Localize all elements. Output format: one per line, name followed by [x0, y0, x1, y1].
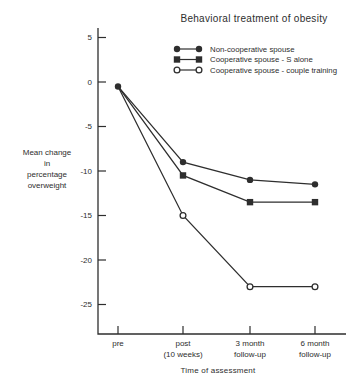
series-line-2: [118, 86, 315, 286]
legend-label: Cooperative spouse - S alone: [210, 55, 313, 64]
filled-square-marker: [180, 172, 186, 178]
series-non-cooperative-spouse: [115, 83, 318, 187]
series-cooperative-spouse-couple-training: [118, 86, 318, 289]
chart-title: Behavioral treatment of obesity: [154, 13, 354, 24]
obesity-treatment-figure: 50-5-10-15-20-25prepost(10 weeks)3 month…: [0, 0, 358, 382]
y-tick-label: 5: [88, 33, 93, 42]
series-line-0: [118, 86, 315, 184]
x-axis-label: Time of assessment: [118, 366, 318, 375]
legend-label: Cooperative spouse - couple training: [210, 66, 337, 75]
filled-circle-marker: [196, 46, 202, 52]
legend-label: Non-cooperative spouse: [210, 45, 295, 54]
y-axis-label-line: overweight: [10, 180, 84, 191]
filled-circle-marker: [115, 83, 121, 89]
open-circle-marker: [247, 284, 253, 290]
y-axis-label: Mean change in percentage overweight: [10, 147, 84, 191]
filled-circle-marker: [174, 46, 180, 52]
filled-square-marker: [247, 199, 253, 205]
y-axis-label-line: in: [10, 158, 84, 169]
legend-item-non-cooperative-spouse: Non-cooperative spouse: [174, 45, 295, 54]
filled-circle-marker: [247, 177, 253, 183]
x-tick-label: post(10 weeks): [163, 339, 202, 359]
filled-circle-marker: [180, 159, 186, 165]
filled-square-marker: [196, 56, 202, 62]
x-tick-label: 6 monthfollow-up: [299, 339, 332, 359]
y-axis-label-line: percentage: [10, 169, 84, 180]
y-tick-label: -20: [80, 256, 92, 265]
filled-circle-marker: [312, 181, 318, 187]
x-tick-label: pre: [112, 339, 124, 348]
open-circle-marker: [196, 67, 202, 73]
y-tick-label: 0: [88, 78, 93, 87]
y-tick-label: -25: [80, 300, 92, 309]
y-tick-label: -15: [80, 211, 92, 220]
y-tick-label: -5: [85, 122, 93, 131]
y-axis-ticks: 50-5-10-15-20-25: [80, 33, 106, 309]
legend-item-cooperative-spouse-couple-training: Cooperative spouse - couple training: [174, 66, 337, 75]
y-axis-label-line: Mean change: [10, 147, 84, 158]
line-chart-canvas: 50-5-10-15-20-25prepost(10 weeks)3 month…: [0, 0, 358, 382]
filled-square-marker: [312, 199, 318, 205]
x-tick-label: 3 monthfollow-up: [234, 339, 267, 359]
filled-square-marker: [174, 56, 180, 62]
x-axis-ticks: prepost(10 weeks)3 monthfollow-up6 month…: [112, 326, 331, 359]
open-circle-marker: [312, 284, 318, 290]
open-circle-marker: [174, 67, 180, 73]
open-circle-marker: [180, 213, 186, 219]
legend-item-cooperative-spouse-s-alone: Cooperative spouse - S alone: [174, 55, 313, 64]
legend: Non-cooperative spouseCooperative spouse…: [174, 45, 337, 75]
